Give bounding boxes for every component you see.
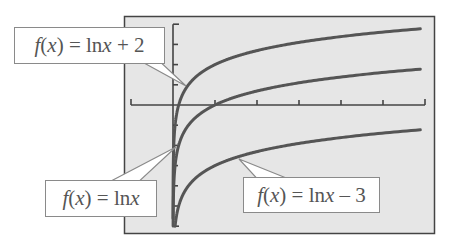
expr: ) = ln (57, 35, 103, 56)
shift: + 2 (112, 35, 145, 56)
var-x: x (47, 35, 56, 56)
shift: – 3 (334, 185, 366, 206)
label-ln-x-minus-3: f(x) = ln x – 3 (243, 177, 380, 213)
expr: ) = ln (85, 188, 131, 209)
label-ln-x: f(x) = ln x (45, 180, 157, 217)
paren: ( (263, 185, 270, 206)
var-x: x (75, 188, 84, 209)
var-x: x (130, 188, 139, 209)
expr: ) = ln (279, 185, 325, 206)
var-x: x (102, 35, 111, 56)
var-x: x (325, 185, 334, 206)
label-ln-x-plus-2: f(x) = ln x + 2 (14, 27, 165, 64)
var-x: x (270, 185, 279, 206)
